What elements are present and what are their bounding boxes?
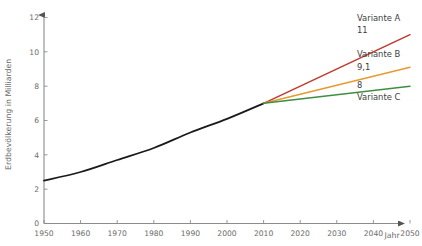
- x-axis-ticks: 1950 1960 1970 1980 1990 2000 2010 2020 …: [34, 220, 383, 238]
- annotation-label-variante-c: Variante C: [357, 92, 401, 102]
- y-tick-label: 8: [34, 82, 39, 91]
- y-tick-label: 2: [34, 185, 39, 194]
- annotation-value-variante-b: 9,1: [357, 62, 370, 72]
- x-tick-label: 1950: [34, 229, 53, 238]
- chart-canvas: 0 2 4 6 8 10 12 1950 1960 1970 1980: [0, 0, 422, 246]
- population-chart: 0 2 4 6 8 10 12 1950 1960 1970 1980: [0, 0, 422, 246]
- x-tick-label: 1970: [108, 229, 127, 238]
- y-axis-ticks: 0 2 4 6 8 10 12: [29, 13, 47, 228]
- x-tick-label: 1960: [71, 229, 90, 238]
- x-tick-label: 2010: [254, 229, 273, 238]
- y-axis-title: Erdbevölkerung in Milliarden: [4, 59, 13, 170]
- x-tick-label: 2020: [291, 229, 310, 238]
- x-tick-label: 1990: [181, 229, 200, 238]
- y-tick-label: 6: [34, 116, 39, 125]
- y-tick-label: 10: [29, 48, 39, 57]
- annotation-variante-a: Variante A 11: [357, 13, 401, 35]
- annotation-label-variante-b: Variante B: [357, 49, 401, 59]
- series-line-historical-main: [44, 103, 264, 180]
- x-tick-label: 2030: [327, 229, 346, 238]
- y-tick-label: 4: [34, 151, 39, 160]
- x-tick-label: 2040: [364, 229, 383, 238]
- y-tick-label: 0: [34, 219, 39, 228]
- annotation-value-variante-c: 8: [357, 80, 362, 90]
- x-tick-label: 2000: [217, 229, 236, 238]
- annotation-value-variante-a: 11: [357, 25, 368, 35]
- annotation-variante-b: Variante B 9,1: [357, 49, 401, 72]
- x-tick-label: 2050: [400, 229, 419, 238]
- annotation-label-variante-a: Variante A: [357, 13, 401, 23]
- x-tick-label: 1980: [144, 229, 163, 238]
- x-axis-title: Jahr: [383, 231, 400, 240]
- y-tick-label: 12: [29, 13, 39, 22]
